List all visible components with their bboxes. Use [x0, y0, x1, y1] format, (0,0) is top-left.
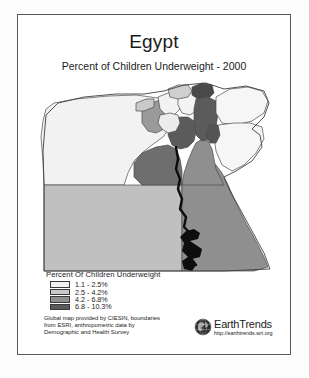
legend-swatch-4	[50, 304, 70, 311]
page-title: Egypt	[18, 31, 290, 53]
brand-text: EarthTrends http://earthtrends.wri.org	[214, 319, 272, 336]
map-sheet: Egypt Percent of Children Underweight - …	[17, 14, 291, 355]
credits-line-1: Global map provided by CIESIN, boundarie…	[44, 315, 194, 322]
brand-url: http://earthtrends.wri.org	[214, 330, 272, 336]
credits-line-2: from ESRI, anthropometric data by	[44, 322, 194, 329]
globe-icon	[194, 318, 212, 336]
page-subtitle: Percent of Children Underweight - 2000	[18, 60, 290, 72]
earthtrends-brand: EarthTrends http://earthtrends.wri.org	[194, 318, 272, 336]
legend-swatch-3	[50, 296, 70, 303]
region-kafr-el-sheikh	[168, 85, 192, 99]
region-damietta-port-said	[192, 83, 214, 99]
map-legend: Percent Of Children Underweight 1.1 - 2.…	[44, 270, 224, 311]
map-page: Egypt Percent of Children Underweight - …	[0, 0, 309, 378]
region-south-sinai	[214, 123, 264, 171]
brand-name: EarthTrends	[214, 319, 272, 330]
map-credits: Global map provided by CIESIN, boundarie…	[44, 315, 194, 337]
credits-line-3: Demographic and Health Survey	[44, 329, 194, 336]
region-new-valley	[44, 185, 182, 271]
choropleth-map	[24, 81, 286, 281]
legend-swatch-1	[50, 281, 70, 288]
legend-label-4: 6.8 - 10.3%	[75, 302, 112, 311]
legend-item: 6.8 - 10.3%	[50, 303, 224, 310]
legend-title: Percent Of Children Underweight	[46, 270, 224, 279]
egypt-map-svg	[24, 81, 286, 281]
legend-swatch-2	[50, 289, 70, 296]
region-north-sinai	[216, 87, 268, 125]
